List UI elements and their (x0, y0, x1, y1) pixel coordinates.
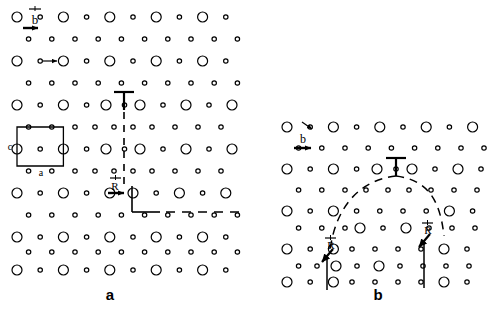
atom-row (26, 169, 223, 173)
atom-row (282, 244, 469, 254)
unit-cell-label-a: a (39, 167, 44, 178)
atom-row (282, 164, 483, 174)
atom-row (26, 81, 239, 85)
figure-container: b c a R b R R a b (0, 0, 488, 315)
atom-row (26, 213, 239, 217)
partial-label-left-b: R (327, 239, 335, 251)
atom-row (26, 250, 239, 254)
unit-cell-label-c: c (8, 141, 13, 152)
atom-row (282, 206, 475, 216)
atom-row (12, 12, 228, 22)
atom-row (12, 265, 228, 275)
displacement-label-a: R (111, 180, 119, 192)
dislocation-symbol-lower-a (132, 186, 244, 212)
atom-row (12, 232, 228, 242)
dislocation-symbol-b (386, 158, 406, 176)
atom-row (282, 122, 478, 132)
atom-row (26, 37, 239, 41)
partial-label-right-b: R (424, 224, 432, 236)
panel-b-lattice (282, 122, 486, 287)
lattice-diagram-svg: b c a R b R R (0, 0, 488, 315)
burgers-label-b: b (300, 132, 306, 146)
atom-row (296, 146, 486, 150)
panel-label-a: a (100, 286, 120, 303)
panel-label-b: b (368, 286, 388, 303)
burgers-label-a: b (32, 12, 39, 27)
atom-row (296, 188, 479, 192)
panel-a-lattice (12, 12, 240, 275)
atom-row (296, 223, 477, 233)
